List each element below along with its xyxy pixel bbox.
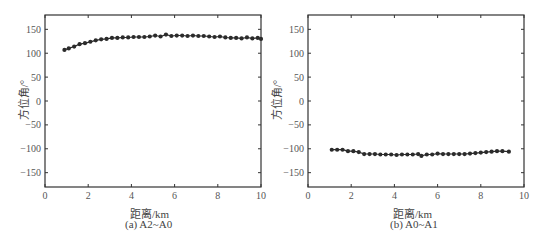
data-point-marker — [72, 44, 76, 48]
y-tick-label: 150 — [289, 24, 304, 35]
data-point-marker — [436, 151, 440, 155]
y-tick-label: −150 — [20, 167, 41, 178]
data-point-marker — [62, 48, 66, 52]
data-point-marker — [490, 150, 494, 154]
x-tick-label: 2 — [86, 190, 91, 201]
data-point-marker — [245, 35, 249, 39]
data-point-marker — [457, 152, 461, 156]
y-tick-label: 50 — [294, 72, 304, 83]
data-point-marker — [378, 152, 382, 156]
plot-area-b: 150100500−50−100−1500246810 — [263, 0, 539, 239]
data-point-marker — [411, 152, 415, 156]
x-tick-label: 0 — [306, 190, 311, 201]
data-point-marker — [169, 34, 173, 38]
axes-frame — [308, 15, 524, 187]
chart-panel-b: 150100500−50−100−1500246810 方位角/° 距离/km … — [263, 0, 533, 239]
x-tick-label: 2 — [349, 190, 354, 201]
y-tick-label: −100 — [20, 143, 41, 154]
y-tick-label: 0 — [299, 96, 304, 107]
data-point-marker — [218, 34, 222, 38]
y-tick-label: −100 — [283, 143, 304, 154]
data-point-marker — [330, 148, 334, 152]
data-point-marker — [94, 38, 98, 42]
data-point-marker — [202, 34, 206, 38]
data-point-marker — [405, 152, 409, 156]
data-point-marker — [384, 152, 388, 156]
x-tick-label: 8 — [215, 190, 220, 201]
data-point-marker — [463, 152, 467, 156]
x-tick-label: 10 — [519, 190, 529, 201]
x-tick-label: 6 — [435, 190, 440, 201]
data-point-marker — [425, 152, 429, 156]
x-tick-label: 6 — [172, 190, 177, 201]
data-point-marker — [495, 149, 499, 153]
data-point-marker — [212, 35, 216, 39]
data-point-marker — [121, 35, 125, 39]
data-point-marker — [88, 40, 92, 44]
data-point-marker — [153, 33, 157, 37]
data-point-marker — [207, 34, 211, 38]
data-point-marker — [452, 152, 456, 156]
x-tick-label: 8 — [478, 190, 483, 201]
x-tick-label: 0 — [43, 190, 48, 201]
data-point-marker — [67, 46, 71, 50]
data-point-marker — [394, 153, 398, 157]
data-point-marker — [389, 152, 393, 156]
data-point-marker — [468, 151, 472, 155]
chart-panel-a: 150100500−50−100−1500246810 方位角/° 距离/km … — [0, 0, 270, 239]
data-point-marker — [191, 33, 195, 37]
data-point-marker — [137, 35, 141, 39]
caption-b: (b) A0~A1 — [390, 218, 438, 230]
data-point-marker — [373, 152, 377, 156]
data-point-marker — [346, 149, 350, 153]
data-point-marker — [229, 36, 233, 40]
axes-frame — [45, 15, 261, 187]
data-point-marker — [196, 34, 200, 38]
data-point-marker — [362, 152, 366, 156]
data-point-marker — [400, 152, 404, 156]
data-point-marker — [479, 151, 483, 155]
x-tick-label: 4 — [392, 190, 397, 201]
data-point-marker — [446, 152, 450, 156]
data-point-marker — [110, 36, 114, 40]
y-tick-label: 100 — [26, 48, 41, 59]
data-point-marker — [148, 34, 152, 38]
data-point-marker — [351, 149, 355, 153]
y-tick-label: 0 — [36, 96, 41, 107]
data-point-marker — [250, 36, 254, 40]
data-point-marker — [239, 36, 243, 40]
data-point-marker — [430, 152, 434, 156]
data-point-marker — [484, 150, 488, 154]
data-point-marker — [83, 41, 87, 45]
data-point-marker — [367, 152, 371, 156]
data-point-marker — [340, 148, 344, 152]
caption-a: (a) A2~A0 — [125, 218, 172, 230]
y-tick-label: 100 — [289, 48, 304, 59]
data-point-marker — [441, 152, 445, 156]
data-point-marker — [131, 35, 135, 39]
data-point-marker — [175, 33, 179, 37]
data-point-marker — [164, 32, 168, 36]
data-point-marker — [77, 42, 81, 46]
data-point-marker — [335, 148, 339, 152]
data-point-marker — [357, 150, 361, 154]
data-point-marker — [158, 34, 162, 38]
data-point-marker — [507, 150, 511, 154]
x-tick-label: 4 — [129, 190, 134, 201]
data-point-marker — [419, 154, 423, 158]
data-point-marker — [142, 35, 146, 39]
data-point-marker — [223, 35, 227, 39]
data-point-marker — [104, 37, 108, 41]
data-point-marker — [473, 151, 477, 155]
data-point-marker — [99, 37, 103, 41]
y-axis-title-a: 方位角/° — [15, 75, 31, 125]
y-axis-title-b: 方位角/° — [268, 75, 284, 125]
data-point-marker — [180, 33, 184, 37]
data-point-marker — [126, 35, 130, 39]
plot-area-a: 150100500−50−100−1500246810 — [0, 0, 270, 239]
y-tick-label: −50 — [288, 119, 304, 130]
data-point-marker — [115, 36, 119, 40]
data-point-marker — [500, 149, 504, 153]
y-tick-label: −150 — [283, 167, 304, 178]
y-tick-label: 150 — [26, 24, 41, 35]
